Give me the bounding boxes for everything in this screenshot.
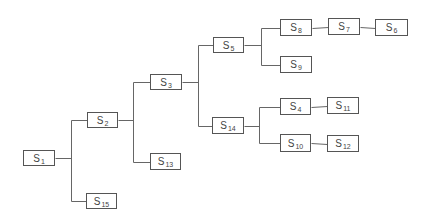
connector — [312, 144, 328, 145]
node-label: S — [94, 196, 101, 207]
connector — [312, 107, 328, 108]
connector-lines — [0, 0, 431, 223]
node-subscript: 8 — [298, 27, 302, 34]
node-label: S — [336, 100, 343, 111]
node-s13: S13 — [150, 153, 181, 170]
node-subscript: 4 — [297, 106, 301, 113]
node-s10: S10 — [280, 134, 311, 152]
node-subscript: 3 — [168, 82, 172, 89]
node-s8: S8 — [280, 19, 312, 36]
node-s9: S9 — [280, 56, 312, 73]
node-s2: S2 — [87, 112, 118, 128]
node-label: S — [97, 115, 104, 126]
node-label: S — [338, 21, 345, 32]
node-s4: S4 — [280, 98, 311, 115]
node-s5: S5 — [213, 37, 244, 53]
node-s14: S14 — [212, 117, 244, 134]
node-s1: S1 — [23, 150, 55, 166]
node-s15: S15 — [86, 193, 117, 209]
node-label: S — [386, 22, 393, 33]
node-label: S — [290, 22, 297, 33]
node-label: S — [290, 101, 297, 112]
node-label: S — [220, 120, 227, 131]
node-subscript: 15 — [101, 201, 109, 208]
node-s7: S7 — [328, 18, 360, 35]
node-subscript: 12 — [343, 143, 351, 150]
node-label: S — [288, 138, 295, 149]
node-subscript: 1 — [41, 158, 45, 165]
node-subscript: 13 — [165, 161, 173, 168]
node-subscript: 11 — [343, 105, 350, 112]
node-s3: S3 — [150, 74, 182, 90]
node-subscript: 6 — [393, 27, 397, 34]
node-subscript: 10 — [295, 143, 303, 150]
node-label: S — [223, 40, 230, 51]
node-label: S — [158, 156, 165, 167]
node-subscript: 2 — [104, 120, 108, 127]
node-subscript: 9 — [298, 64, 302, 71]
node-subscript: 7 — [346, 26, 350, 33]
node-label: S — [33, 153, 40, 164]
node-s11: S11 — [327, 97, 359, 114]
node-label: S — [335, 138, 342, 149]
connector — [313, 28, 329, 29]
node-label: S — [160, 77, 167, 88]
node-subscript: 5 — [230, 45, 234, 52]
connector — [361, 28, 376, 29]
node-subscript: 14 — [228, 125, 236, 132]
node-label: S — [290, 59, 297, 70]
tree-diagram: S1S2S15S3S13S5S14S8S7S6S9S4S11S10S12 — [0, 0, 431, 223]
node-s12: S12 — [327, 135, 359, 152]
node-s6: S6 — [375, 19, 408, 36]
